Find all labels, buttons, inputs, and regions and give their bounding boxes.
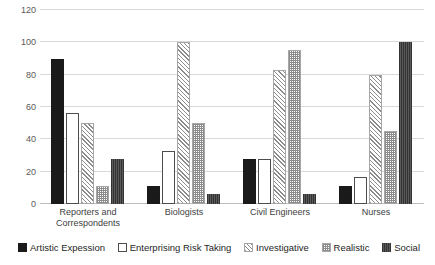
bar[interactable] xyxy=(96,186,109,204)
y-axis-tick-label: 80 xyxy=(0,70,36,80)
legend-label: Enterprising Risk Taking xyxy=(130,242,232,253)
bar[interactable] xyxy=(399,42,412,204)
bar[interactable] xyxy=(384,131,397,204)
legend-item[interactable]: Investigative xyxy=(244,242,309,253)
bar[interactable] xyxy=(192,123,205,204)
y-axis-tick-label: 120 xyxy=(0,5,36,15)
bar[interactable] xyxy=(243,159,256,204)
legend-item[interactable]: Realistic xyxy=(322,242,370,253)
bar-cluster xyxy=(51,10,125,204)
bar[interactable] xyxy=(354,177,367,204)
bar-groups xyxy=(40,10,424,204)
bar[interactable] xyxy=(258,159,271,204)
bar-chart: 020406080100120 Reporters andCorresponde… xyxy=(0,0,435,265)
plot-area xyxy=(40,10,424,204)
bar-cluster xyxy=(339,10,413,204)
bar[interactable] xyxy=(111,159,124,204)
y-axis-tick-label: 100 xyxy=(0,37,36,47)
x-axis-category-label: Civil Engineers xyxy=(232,207,328,229)
legend-swatch-icon xyxy=(118,243,127,252)
legend-swatch-icon xyxy=(244,243,253,252)
bar-group xyxy=(136,10,232,204)
x-axis-category-label: Biologists xyxy=(136,207,232,229)
bar-cluster xyxy=(147,10,221,204)
legend-label: Social xyxy=(394,242,420,253)
x-axis-category-label-line: Biologists xyxy=(136,207,232,218)
bar[interactable] xyxy=(147,186,160,204)
legend-swatch-icon xyxy=(18,243,27,252)
x-axis-category-label: Nurses xyxy=(328,207,424,229)
x-axis-category-label-line: Nurses xyxy=(328,207,424,218)
bar-group xyxy=(40,10,136,204)
x-axis-category-label-line: Reporters and xyxy=(40,207,136,218)
bar[interactable] xyxy=(369,75,382,204)
bar[interactable] xyxy=(51,59,64,205)
legend-item[interactable]: Enterprising Risk Taking xyxy=(118,242,232,253)
y-axis-tick-label: 0 xyxy=(0,199,36,209)
bar-cluster xyxy=(243,10,317,204)
y-axis-tick-label: 60 xyxy=(0,102,36,112)
legend-item[interactable]: Social xyxy=(382,242,420,253)
legend-label: Artistic Expession xyxy=(30,242,105,253)
legend-swatch-icon xyxy=(322,243,331,252)
x-axis-category-label: Reporters andCorrespondents xyxy=(40,207,136,229)
legend-label: Realistic xyxy=(334,242,370,253)
bar[interactable] xyxy=(207,194,220,204)
x-axis-category-label-line: Civil Engineers xyxy=(232,207,328,218)
legend-swatch-icon xyxy=(382,243,391,252)
bar-group xyxy=(232,10,328,204)
bar[interactable] xyxy=(273,70,286,204)
bar[interactable] xyxy=(66,113,79,204)
x-axis-category-label-line: Correspondents xyxy=(40,218,136,229)
legend-label: Investigative xyxy=(256,242,309,253)
bar[interactable] xyxy=(162,151,175,204)
legend-item[interactable]: Artistic Expession xyxy=(18,242,105,253)
bar[interactable] xyxy=(303,194,316,204)
y-axis-tick-label: 40 xyxy=(0,134,36,144)
bar-group xyxy=(328,10,424,204)
x-axis-category-labels: Reporters andCorrespondentsBiologistsCiv… xyxy=(40,207,424,229)
y-axis-tick-label: 20 xyxy=(0,167,36,177)
chart-legend: Artistic ExpessionEnterprising Risk Taki… xyxy=(18,242,420,253)
bar[interactable] xyxy=(339,186,352,204)
bar[interactable] xyxy=(288,50,301,204)
bar[interactable] xyxy=(81,123,94,204)
bar[interactable] xyxy=(177,42,190,204)
